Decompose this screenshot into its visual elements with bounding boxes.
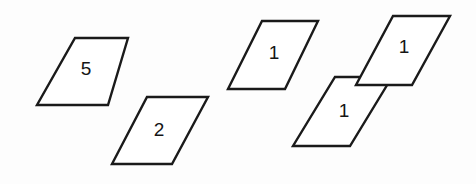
parallelogram-5-label: 5 (81, 58, 92, 79)
parallelogram-2-label: 2 (154, 119, 165, 140)
parallelogram-1-c-lower-label: 1 (339, 100, 350, 121)
figure-canvas: 5 2 1 1 1 (0, 0, 476, 184)
parallelogram-1-a-label: 1 (269, 42, 280, 63)
parallelogram-1-b-upper-label: 1 (399, 36, 410, 57)
parallelograms-figure: 5 2 1 1 1 (0, 0, 476, 184)
